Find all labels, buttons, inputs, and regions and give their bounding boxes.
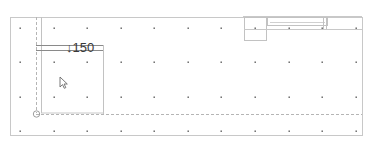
drawing-svg[interactable] [0,0,370,144]
mouse-cursor-icon [60,77,67,88]
grid-dot [322,28,323,29]
top-right-box-wide [268,18,328,26]
grid-dot [188,28,189,29]
grid-dot [322,131,323,132]
grid-dot [221,62,222,63]
grid-dot [20,131,21,132]
drawing-canvas[interactable]: ↓150 [0,0,370,144]
grid-dot [87,131,88,132]
grid-dot [188,131,189,132]
grid-dot [87,62,88,63]
level-marker-label[interactable]: ↓150 [66,41,94,54]
grid-dot [255,97,256,98]
grid-dot [54,97,55,98]
grid-dot [54,131,55,132]
grid-dot [289,97,290,98]
grid-dot [289,131,290,132]
grid-dot [289,28,290,29]
grid-dot [20,62,21,63]
grid-dot [154,28,155,29]
grid-dot [356,28,357,29]
grid-dot [154,131,155,132]
grid-dot [121,131,122,132]
grid-dot [121,97,122,98]
grid-dot [154,97,155,98]
grid-dot [221,97,222,98]
grid-dot [121,62,122,63]
drawing-frame [11,18,363,136]
grid-dot [289,62,290,63]
grid-dot [154,62,155,63]
grid-dot [322,97,323,98]
grid-dot [121,28,122,29]
grid-dot [255,28,256,29]
grid-dot [20,28,21,29]
grid-dot [20,97,21,98]
grid-dot [87,97,88,98]
grid-dot [356,131,357,132]
grid-dot [54,28,55,29]
grid-dot [255,62,256,63]
grid-dot [255,131,256,132]
grid-dot [87,28,88,29]
grid-dot [221,28,222,29]
grid-dot [356,97,357,98]
grid-dot [188,97,189,98]
grid-dot [322,62,323,63]
grid-dot [221,131,222,132]
grid-dot [356,62,357,63]
grid-dot [54,62,55,63]
grid-dot [188,62,189,63]
